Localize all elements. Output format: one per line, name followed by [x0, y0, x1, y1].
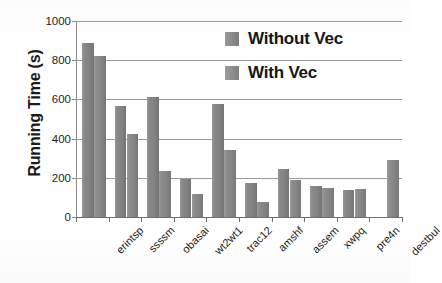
y-tick-label-0: 0 — [65, 211, 71, 223]
y-axis-title: Running Time (s) — [26, 18, 44, 208]
x-tick-label-destbul: destbul — [408, 224, 442, 258]
bar-ssssm-without-vec — [115, 106, 127, 217]
bar-trac12-with-vec — [224, 150, 236, 217]
bar-trac12-without-vec — [212, 104, 224, 217]
x-tick-trac12 — [206, 217, 207, 222]
x-tick-label-wt2wt1: wt2wt1 — [212, 224, 245, 257]
bar-assem-with-vec — [290, 180, 302, 217]
x-tick-label-pre4n: pre4n — [373, 224, 401, 252]
bar-obasai-with-vec — [159, 171, 171, 217]
bar-wt2wt1-without-vec — [180, 179, 192, 217]
y-tick-label-600: 600 — [52, 93, 71, 105]
x-tick-amshf — [239, 217, 240, 222]
legend-swatch-with-vec — [225, 66, 239, 80]
x-tick-label-trac12: trac12 — [244, 224, 274, 254]
x-tick-obasai — [141, 217, 142, 222]
y-tick-label-400: 400 — [52, 133, 71, 145]
x-tick-pre4n — [337, 217, 338, 222]
x-tick-xwpq — [304, 217, 305, 222]
x-tick-label-erintsp: erintsp — [114, 224, 146, 256]
bar-pre4n-without-vec — [343, 190, 355, 217]
bar-erintsp-without-vec — [82, 43, 94, 217]
bar-obasai-without-vec — [147, 97, 159, 217]
x-tick-end — [402, 217, 403, 222]
x-tick-erintsp — [76, 217, 77, 222]
bar-erintsp-with-vec — [94, 56, 106, 217]
x-tick-label-xwpq: xwpq — [340, 224, 367, 251]
legend-item-with-vec: With Vec — [225, 62, 343, 84]
bar-destbul-with-vec — [387, 160, 399, 217]
bar-xwpq-with-vec — [322, 188, 334, 217]
bar-ssssm-with-vec — [127, 134, 139, 217]
bar-assem-without-vec — [278, 169, 290, 217]
bar-wt2wt1-with-vec — [192, 194, 204, 217]
x-tick-wt2wt1 — [174, 217, 175, 222]
x-tick-label-assem: assem — [309, 224, 340, 255]
bar-pre4n-with-vec — [355, 189, 367, 217]
x-tick-label-obasai: obasai — [179, 224, 210, 255]
y-tick-label-1000: 1000 — [45, 15, 71, 27]
x-tick-assem — [272, 217, 273, 222]
y-tick-label-200: 200 — [52, 172, 71, 184]
legend-swatch-without-vec — [225, 32, 239, 46]
chart-legend: Without VecWith Vec — [225, 28, 343, 96]
x-tick-destbul — [369, 217, 370, 222]
legend-label-with-vec: With Vec — [248, 63, 317, 83]
legend-item-without-vec: Without Vec — [225, 28, 343, 50]
bar-amshf-without-vec — [245, 183, 257, 217]
bar-xwpq-without-vec — [310, 186, 322, 217]
legend-label-without-vec: Without Vec — [248, 29, 343, 49]
bar-amshf-with-vec — [257, 202, 269, 217]
x-tick-ssssm — [109, 217, 110, 222]
x-tick-label-amshf: amshf — [276, 224, 306, 254]
y-tick-label-800: 800 — [52, 54, 71, 66]
x-tick-label-ssssm: ssssm — [146, 224, 177, 255]
